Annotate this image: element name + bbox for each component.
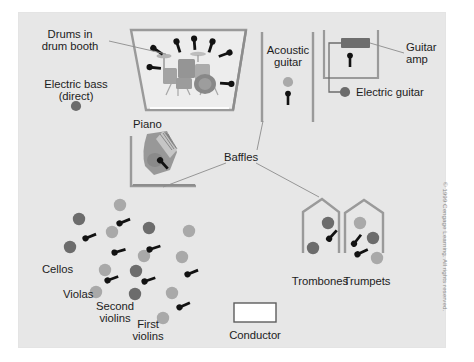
label-cellos: Cellos [42, 263, 73, 275]
label-first-violins-line2: violins [117, 330, 179, 342]
label-electric-guitar: Electric guitar [356, 86, 424, 98]
acoustic-guitar-microphone [285, 91, 291, 105]
acoustic-guitar-dot [283, 77, 293, 87]
label-piano: Piano [133, 118, 162, 130]
label-second-violins-line1: Second [84, 300, 146, 312]
studio-diagram-graphics [0, 0, 474, 362]
label-drums: Drums in drum booth [29, 28, 111, 53]
label-electric-bass-line1: Electric bass [30, 78, 122, 90]
guitar-amp-icon [341, 38, 370, 48]
label-acoustic-guitar-line2: guitar [256, 56, 320, 68]
leader-guitar-amp [370, 43, 404, 53]
label-baffles: Baffles [208, 151, 274, 163]
guitar-cable [329, 43, 341, 92]
label-violas: Violas [63, 288, 93, 300]
trumpet-microphones [350, 233, 369, 259]
label-acoustic-guitar: Acoustic guitar [256, 44, 320, 69]
trombone-microphones [325, 228, 339, 243]
label-first-violins: First violins [117, 318, 179, 343]
label-first-violins-line1: First [117, 318, 179, 330]
label-drums-line1: Drums in [29, 28, 111, 40]
label-guitar-amp: Guitar amp [406, 41, 436, 66]
label-electric-bass-line2: (direct) [30, 90, 122, 102]
electric-guitar-dot [340, 87, 350, 97]
label-guitar-amp-line1: Guitar [406, 41, 436, 53]
guitar-amp-microphone [347, 53, 353, 67]
figure-canvas: Drums in drum booth Electric bass (direc… [0, 0, 474, 362]
label-guitar-amp-line2: amp [406, 53, 436, 65]
piano-icon [143, 131, 177, 175]
conductor-podium [234, 303, 276, 322]
label-conductor: Conductor [221, 329, 289, 341]
label-drums-line2: drum booth [29, 40, 111, 52]
label-trumpets: Trumpets [341, 275, 393, 287]
trombone-players [307, 217, 334, 254]
label-acoustic-guitar-line1: Acoustic [256, 44, 320, 56]
label-electric-bass: Electric bass (direct) [30, 78, 122, 103]
copyright-notice: © 1999 Cengage Learning. All rights rese… [442, 182, 449, 342]
